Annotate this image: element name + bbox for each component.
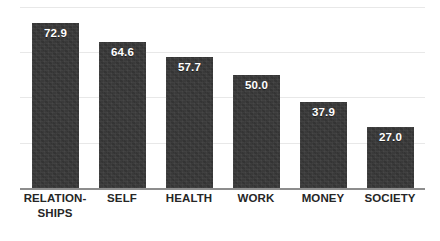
bar-self[interactable]: 64.6 [99,42,146,188]
gridline-20 [20,143,425,144]
bar-value-money: 37.9 [300,106,347,119]
bar-relationships[interactable]: 72.9 [32,23,79,188]
x-axis-line [20,188,425,190]
gridline-40 [20,97,425,98]
bar-chart: 72.9 64.6 57.7 50.0 37.9 27.0 RELATION- … [0,0,440,241]
bar-society[interactable]: 27.0 [367,127,414,188]
plot-area: 72.9 64.6 57.7 50.0 37.9 27.0 [0,0,440,189]
bar-value-society: 27.0 [367,131,414,144]
bar-value-self: 64.6 [99,46,146,59]
bar-work[interactable]: 50.0 [233,75,280,188]
category-axis: RELATION- SHIPS SELF HEALTH WORK MONEY S… [0,191,440,241]
bar-health[interactable]: 57.7 [166,57,213,188]
gridline-60 [20,52,425,53]
bar-value-health: 57.7 [166,61,213,74]
gridline-80 [20,7,425,8]
bar-value-relationships: 72.9 [32,27,79,40]
bar-money[interactable]: 37.9 [300,102,347,188]
bar-value-work: 50.0 [233,79,280,92]
category-label-society: SOCIETY [351,191,429,206]
